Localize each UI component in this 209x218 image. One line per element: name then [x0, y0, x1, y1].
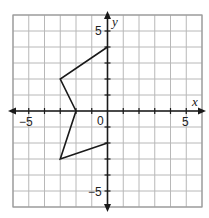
axes: [8, 11, 206, 212]
x-axis-label: x: [191, 94, 198, 109]
arrow-left-icon: [8, 108, 16, 115]
polygon-shape: [60, 47, 107, 159]
tick-label-y-pos5: 5: [95, 24, 102, 38]
y-axis-label: y: [110, 14, 118, 29]
arrow-down-icon: [104, 204, 111, 212]
tick-label-x-neg5: −5: [19, 115, 33, 129]
tick-label-origin: 0: [97, 114, 104, 128]
tick-label-x-pos5: 5: [182, 115, 189, 129]
coordinate-plane: x y −5 5 0 5 −5: [0, 0, 209, 218]
tick-label-y-neg5: −5: [88, 185, 102, 199]
